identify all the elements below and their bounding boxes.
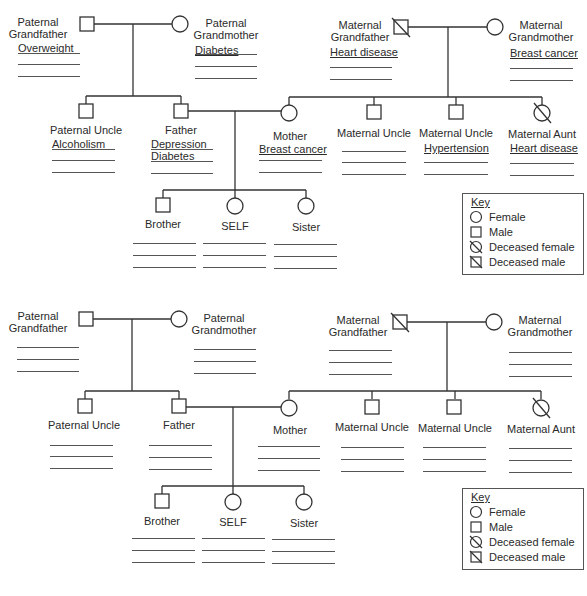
blank-line[interactable] xyxy=(423,459,486,460)
crossed-square-icon xyxy=(469,255,483,269)
paternal-grandfather-label: Paternal Grandfather xyxy=(8,16,68,40)
blank-line[interactable] xyxy=(151,149,213,150)
maternal-uncle-label: Maternal Uncle xyxy=(336,127,412,139)
blank-line[interactable] xyxy=(330,67,392,68)
blank-line[interactable] xyxy=(18,64,80,65)
blank-line[interactable] xyxy=(274,268,337,269)
blank-line[interactable] xyxy=(272,539,335,540)
self-label: SELF xyxy=(213,516,253,528)
blank-line[interactable] xyxy=(195,78,257,79)
blank-line[interactable] xyxy=(342,162,406,163)
blank-line[interactable] xyxy=(329,350,392,351)
blank-line[interactable] xyxy=(202,550,265,551)
square-icon xyxy=(469,520,483,534)
legend-key: Key Female Male Deceased female Deceased… xyxy=(462,193,584,275)
blank-line[interactable] xyxy=(424,162,488,163)
blank-line[interactable] xyxy=(330,79,392,80)
blank-line[interactable] xyxy=(259,160,322,161)
blank-line[interactable] xyxy=(18,76,80,77)
key-item-deceased-male: Deceased male xyxy=(469,255,565,269)
blank-line[interactable] xyxy=(50,445,113,446)
blank-line[interactable] xyxy=(151,173,213,174)
blank-line[interactable] xyxy=(194,373,256,374)
blank-line[interactable] xyxy=(341,447,404,448)
blank-line[interactable] xyxy=(195,54,257,55)
blank-line[interactable] xyxy=(272,563,335,564)
blank-line[interactable] xyxy=(258,458,320,459)
blank-line[interactable] xyxy=(133,255,196,256)
maternal-grandmother-label: Maternal Grandmother xyxy=(508,19,574,43)
key-item-male: Male xyxy=(469,520,513,534)
blank-line[interactable] xyxy=(50,468,113,469)
blank-line[interactable] xyxy=(510,175,574,176)
blank-line[interactable] xyxy=(342,174,406,175)
blank-line[interactable] xyxy=(132,562,195,563)
blank-line[interactable] xyxy=(509,376,572,377)
blank-line[interactable] xyxy=(203,255,266,256)
blank-line[interactable] xyxy=(133,267,196,268)
blank-line[interactable] xyxy=(509,364,572,365)
blank-line[interactable] xyxy=(329,362,392,363)
maternal-grandmother-label: Maternal Grandmother xyxy=(507,314,573,338)
blank-line[interactable] xyxy=(424,174,488,175)
blank-line[interactable] xyxy=(342,151,406,152)
blank-line[interactable] xyxy=(510,68,573,69)
brother-label: Brother xyxy=(140,218,186,230)
blank-line[interactable] xyxy=(203,243,266,244)
blank-line[interactable] xyxy=(341,459,404,460)
blank-line[interactable] xyxy=(259,172,322,173)
blank-line[interactable] xyxy=(133,243,196,244)
brother-label: Brother xyxy=(139,515,185,527)
paternal-grandmother-label: Paternal Grandmother xyxy=(193,17,259,41)
blank-line[interactable] xyxy=(194,349,256,350)
blank-line[interactable] xyxy=(194,361,256,362)
blank-line[interactable] xyxy=(149,457,212,458)
blank-line[interactable] xyxy=(274,244,337,245)
maternal-aunt-label: Maternal Aunt xyxy=(504,423,578,435)
circle-icon xyxy=(469,210,483,224)
maternal-uncle-label: Maternal Uncle xyxy=(417,422,493,434)
blank-line[interactable] xyxy=(202,562,265,563)
blank-line[interactable] xyxy=(423,447,486,448)
blank-line[interactable] xyxy=(17,347,79,348)
crossed-square-icon xyxy=(469,550,483,564)
blank-line[interactable] xyxy=(203,267,266,268)
blank-line[interactable] xyxy=(50,456,113,457)
blank-line[interactable] xyxy=(18,53,80,54)
mother-condition: Breast cancer xyxy=(259,143,327,155)
blank-line[interactable] xyxy=(52,172,115,173)
maternal-grandfather-condition: Heart disease xyxy=(330,46,398,58)
blank-line[interactable] xyxy=(149,445,212,446)
blank-line[interactable] xyxy=(509,472,572,473)
blank-line[interactable] xyxy=(509,352,572,353)
blank-line[interactable] xyxy=(202,538,265,539)
blank-line[interactable] xyxy=(272,551,335,552)
blank-line[interactable] xyxy=(17,371,79,372)
blank-line[interactable] xyxy=(341,471,404,472)
key-item-deceased-male: Deceased male xyxy=(469,550,565,564)
mother-label: Mother xyxy=(265,424,315,436)
maternal-aunt-label: Maternal Aunt xyxy=(505,128,579,140)
blank-line[interactable] xyxy=(423,471,486,472)
blank-line[interactable] xyxy=(509,448,572,449)
blank-line[interactable] xyxy=(258,470,320,471)
filled-family-tree: Paternal Grandfather Overweight Paternal… xyxy=(0,0,587,295)
blank-line[interactable] xyxy=(195,66,257,67)
blank-line[interactable] xyxy=(274,256,337,257)
blank-line[interactable] xyxy=(329,374,392,375)
blank-line[interactable] xyxy=(509,460,572,461)
maternal-grandmother-condition: Breast cancer xyxy=(510,47,578,59)
paternal-grandmother-circle-icon xyxy=(172,16,188,32)
key-item-male: Male xyxy=(469,225,513,239)
blank-line[interactable] xyxy=(510,163,574,164)
blank-line[interactable] xyxy=(258,446,320,447)
blank-line[interactable] xyxy=(151,161,213,162)
blank-line[interactable] xyxy=(132,538,195,539)
blank-line[interactable] xyxy=(149,469,212,470)
blank-line[interactable] xyxy=(17,359,79,360)
blank-line[interactable] xyxy=(52,149,115,150)
blank-line[interactable] xyxy=(52,160,115,161)
blank-line[interactable] xyxy=(510,80,573,81)
key-item-deceased-female: Deceased female xyxy=(469,240,575,254)
blank-line[interactable] xyxy=(132,550,195,551)
